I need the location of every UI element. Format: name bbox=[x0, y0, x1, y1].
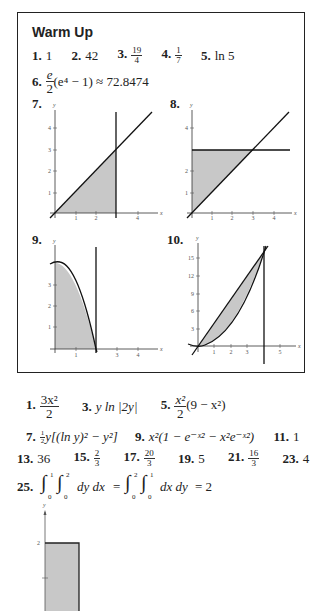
svg-text:y: y bbox=[42, 502, 46, 508]
svg-text:2: 2 bbox=[37, 540, 40, 546]
graph-25: 2 y bbox=[0, 0, 327, 611]
